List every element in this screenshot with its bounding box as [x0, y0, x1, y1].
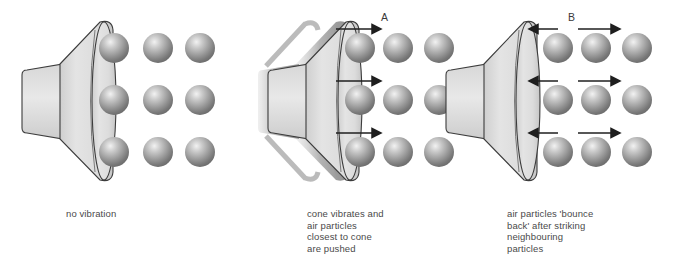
air-particle	[185, 33, 215, 63]
panel-3-letter-label: B	[568, 11, 575, 23]
speaker-cone-face	[516, 22, 540, 180]
air-particle	[543, 33, 573, 63]
air-particle	[143, 85, 173, 115]
speaker-magnet	[22, 64, 63, 139]
push-arrow-head-row3	[372, 129, 381, 138]
panel-1-scene	[0, 0, 233, 195]
travel-arrow-head-row3	[611, 129, 620, 138]
air-particle	[99, 33, 129, 63]
air-particle	[99, 85, 129, 115]
air-particle	[99, 137, 129, 167]
panel-3-scene	[424, 0, 657, 195]
air-particle	[581, 137, 611, 167]
air-particle	[185, 137, 215, 167]
air-particle	[383, 33, 413, 63]
air-particle	[383, 137, 413, 167]
air-particle	[185, 85, 215, 115]
air-particle	[622, 33, 652, 63]
air-particle	[622, 85, 652, 115]
push-arrow-head-row2	[372, 77, 381, 86]
air-particle	[345, 85, 375, 115]
panel-2-caption: cone vibrates and air particles closest …	[307, 208, 384, 254]
air-particle	[345, 137, 375, 167]
panel-1-caption: no vibration	[66, 208, 116, 220]
air-particle	[383, 85, 413, 115]
air-particle	[143, 33, 173, 63]
air-particle	[543, 137, 573, 167]
travel-arrow-head-row2	[611, 77, 620, 86]
panel-3-caption: air particles 'bounce back' after striki…	[507, 208, 593, 254]
air-particle	[345, 33, 375, 63]
air-particle	[143, 137, 173, 167]
air-particle	[581, 33, 611, 63]
speaker-magnet	[446, 64, 487, 139]
panel-no-vibration: no vibration	[0, 0, 233, 273]
panel-bounce-back: B air particles 'bounce back' after stri…	[424, 0, 657, 273]
panel-2-letter-label: A	[381, 11, 388, 23]
air-particle	[622, 137, 652, 167]
travel-arrow-head-row1	[611, 25, 620, 34]
speaker-magnet	[268, 64, 309, 139]
diagram-canvas: no vibration	[0, 0, 699, 273]
air-particle	[581, 85, 611, 115]
push-arrow-head-row1	[372, 25, 381, 34]
air-particle	[543, 85, 573, 115]
